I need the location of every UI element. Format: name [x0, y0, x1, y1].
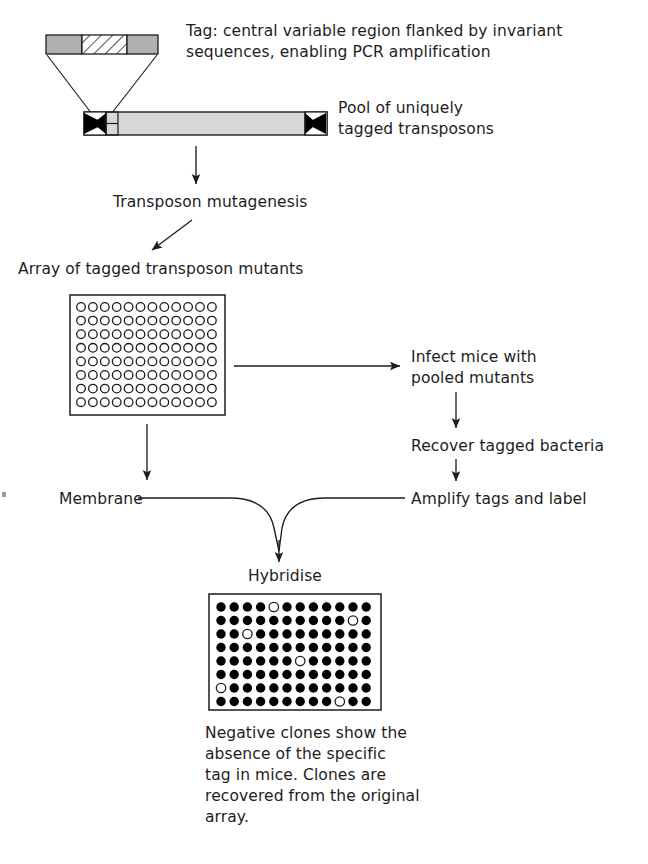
clone-dot-positive	[216, 697, 225, 706]
clone-dot-positive	[256, 656, 265, 665]
clone-dot-positive	[309, 697, 318, 706]
clone-dot-positive	[335, 656, 344, 665]
clone-dot-positive	[230, 602, 239, 611]
clone-dot-positive	[230, 656, 239, 665]
arrow-mutagenesis-to-array	[152, 220, 192, 250]
clone-dot-positive	[230, 616, 239, 625]
clone-dot-positive	[348, 629, 357, 638]
clone-dot-positive	[296, 683, 305, 692]
clone-dot-positive	[282, 643, 291, 652]
clone-dot-positive	[296, 697, 305, 706]
clone-dot-positive	[216, 629, 225, 638]
clone-dot-positive	[322, 683, 331, 692]
clone-dot-positive	[309, 629, 318, 638]
clone-dot-positive	[322, 643, 331, 652]
clone-dot-positive	[362, 602, 371, 611]
clone-dot-positive	[269, 616, 278, 625]
clone-dot-positive	[256, 683, 265, 692]
clone-dot-negative	[269, 602, 278, 611]
clone-dot-positive	[216, 670, 225, 679]
clone-dot-positive	[243, 602, 252, 611]
clone-dot-positive	[309, 643, 318, 652]
clone-dot-positive	[322, 697, 331, 706]
clone-dot-positive	[269, 670, 278, 679]
clone-dot-positive	[282, 697, 291, 706]
clone-dot-positive	[243, 683, 252, 692]
diagram-canvas: Tag: central variable region flanked by …	[0, 0, 648, 864]
clone-dot-positive	[269, 683, 278, 692]
clone-dot-positive	[335, 683, 344, 692]
clone-dot-positive	[362, 656, 371, 665]
clone-dot-positive	[348, 683, 357, 692]
clone-dot-positive	[216, 656, 225, 665]
diagram-graphics	[0, 0, 648, 864]
clone-dot-positive	[296, 616, 305, 625]
clone-dot-positive	[335, 602, 344, 611]
master-array-graphic	[70, 295, 225, 415]
clone-dot-positive	[216, 616, 225, 625]
clone-dot-positive	[256, 670, 265, 679]
clone-dot-positive	[296, 602, 305, 611]
clone-dot-positive	[243, 670, 252, 679]
clone-dot-positive	[256, 697, 265, 706]
clone-dot-positive	[269, 656, 278, 665]
clone-dot-positive	[296, 629, 305, 638]
clone-dot-positive	[362, 683, 371, 692]
clone-dot-positive	[269, 643, 278, 652]
clone-dot-positive	[256, 643, 265, 652]
clone-dot-negative	[216, 683, 225, 692]
clone-dot-positive	[282, 683, 291, 692]
clone-dot-positive	[348, 656, 357, 665]
clone-dot-positive	[322, 670, 331, 679]
clone-dot-positive	[362, 629, 371, 638]
transposon-construct-graphic	[84, 112, 327, 135]
clone-dot-positive	[296, 670, 305, 679]
clone-dot-negative	[243, 629, 252, 638]
clone-dot-positive	[322, 656, 331, 665]
clone-dot-positive	[230, 683, 239, 692]
clone-dot-positive	[296, 643, 305, 652]
zoom-funnel-lines	[47, 55, 157, 118]
hybridised-array-graphic	[209, 594, 381, 710]
merge-connector	[138, 498, 405, 551]
clone-dot-positive	[243, 656, 252, 665]
clone-dot-positive	[309, 616, 318, 625]
clone-dot-negative	[296, 656, 305, 665]
clone-dot-positive	[309, 656, 318, 665]
clone-dot-positive	[335, 670, 344, 679]
clone-dot-positive	[362, 697, 371, 706]
clone-dot-positive	[256, 616, 265, 625]
clone-dot-positive	[282, 602, 291, 611]
clone-dot-positive	[230, 629, 239, 638]
clone-dot-negative	[335, 697, 344, 706]
clone-dot-positive	[269, 697, 278, 706]
clone-dot-positive	[216, 602, 225, 611]
clone-dot-positive	[230, 670, 239, 679]
tag-construct-graphic	[46, 35, 158, 54]
clone-dot-positive	[362, 616, 371, 625]
clone-dot-positive	[282, 616, 291, 625]
clone-dot-positive	[362, 670, 371, 679]
clone-dot-positive	[256, 629, 265, 638]
clone-dot-positive	[322, 629, 331, 638]
clone-dot-positive	[309, 670, 318, 679]
clone-dot-positive	[309, 683, 318, 692]
clone-dot-positive	[230, 643, 239, 652]
clone-dot-positive	[243, 697, 252, 706]
clone-dot-positive	[322, 602, 331, 611]
clone-dot-positive	[348, 697, 357, 706]
clone-dot-positive	[282, 656, 291, 665]
clone-dot-positive	[348, 643, 357, 652]
clone-dot-positive	[362, 643, 371, 652]
clone-dot-positive	[282, 629, 291, 638]
clone-dot-positive	[335, 616, 344, 625]
clone-dot-positive	[269, 629, 278, 638]
clone-dot-positive	[348, 670, 357, 679]
clone-dot-positive	[216, 643, 225, 652]
clone-dot-positive	[256, 602, 265, 611]
clone-dot-positive	[309, 602, 318, 611]
clone-dot-positive	[230, 697, 239, 706]
clone-dot-positive	[282, 670, 291, 679]
clone-dot-positive	[348, 602, 357, 611]
clone-dot-positive	[335, 629, 344, 638]
